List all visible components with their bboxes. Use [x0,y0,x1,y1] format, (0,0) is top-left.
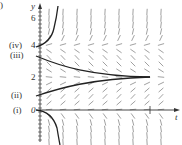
y-tick-4: 4 [31,40,36,50]
curve-ii [36,77,150,96]
t-axis-label: t [175,112,178,122]
curve-label-iii: (iii) [10,50,24,60]
curve-label-i: (i) [13,105,22,115]
corner-mark: ) [0,0,3,10]
curve-label-iv: (iv) [9,40,22,50]
y-tick-6: 6 [31,13,36,23]
y-axis-label: y [30,1,35,11]
y-tick-2: 2 [31,72,36,82]
curve-label-ii: (ii) [11,90,22,100]
y-tick-0: 0 [31,105,36,115]
direction-field-plot: y t 6 4 2 0 (iv) (iii) (ii) (i) ) [0,0,182,145]
y-axis-arrow-icon [38,3,42,9]
